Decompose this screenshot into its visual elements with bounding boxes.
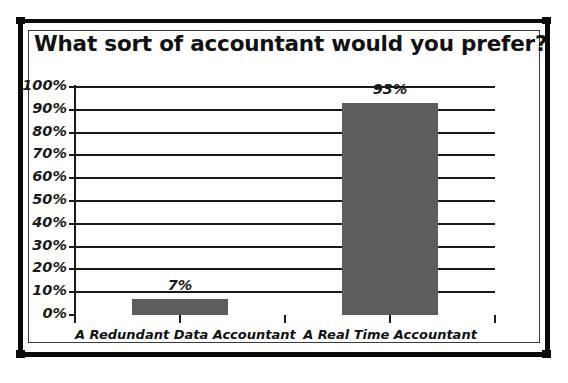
y-axis-label: 80% [9, 123, 67, 139]
y-axis-label: 20% [9, 259, 67, 275]
y-axis-tick [69, 177, 76, 179]
x-axis-tick-center [389, 315, 391, 323]
y-axis-label: 0% [9, 305, 67, 321]
y-axis-tick [69, 291, 76, 293]
bar[interactable] [342, 103, 438, 315]
frame-corner-bottom-left [16, 350, 25, 358]
y-axis-label: 10% [9, 282, 67, 298]
frame-bottom-edge [18, 352, 550, 357]
gridline [75, 86, 495, 88]
y-axis-label: 30% [9, 237, 67, 253]
x-axis-tick-boundary [284, 315, 286, 323]
y-axis-tick [69, 154, 76, 156]
y-axis-tick [69, 109, 76, 111]
frame-corner-top-right [542, 17, 551, 24]
frame-corner-bottom-right [542, 350, 551, 358]
bar-value-label: 7% [140, 277, 220, 293]
x-axis-tick-boundary [494, 315, 496, 323]
y-axis-tick [69, 246, 76, 248]
y-axis-tick [69, 86, 76, 88]
y-axis-tick [69, 200, 76, 202]
y-axis-label: 50% [9, 191, 67, 207]
y-axis-label: 60% [9, 168, 67, 184]
x-axis-tick-center [179, 315, 181, 323]
y-axis-tick [69, 223, 76, 225]
y-axis-label: 90% [9, 100, 67, 116]
frame-top-edge [18, 19, 550, 23]
frame-right-edge [545, 19, 550, 357]
x-axis-category-label: A Redundant Data Accountant [75, 327, 285, 342]
y-axis-label: 70% [9, 145, 67, 161]
chart-axes-area: 7%93% A Redundant Data AccountantA Real … [75, 87, 495, 315]
x-axis-tick-boundary [74, 315, 76, 323]
bar[interactable] [132, 299, 228, 315]
frame-corner-top-left [16, 17, 25, 24]
y-axis-label: 40% [9, 214, 67, 230]
bar-value-label: 93% [350, 81, 430, 97]
y-axis-label: 100% [9, 77, 67, 93]
y-axis-tick [69, 268, 76, 270]
y-axis-tick [69, 132, 76, 134]
chart-title: What sort of accountant would you prefer… [34, 31, 534, 56]
x-axis-category-label: A Real Time Accountant [285, 327, 495, 342]
